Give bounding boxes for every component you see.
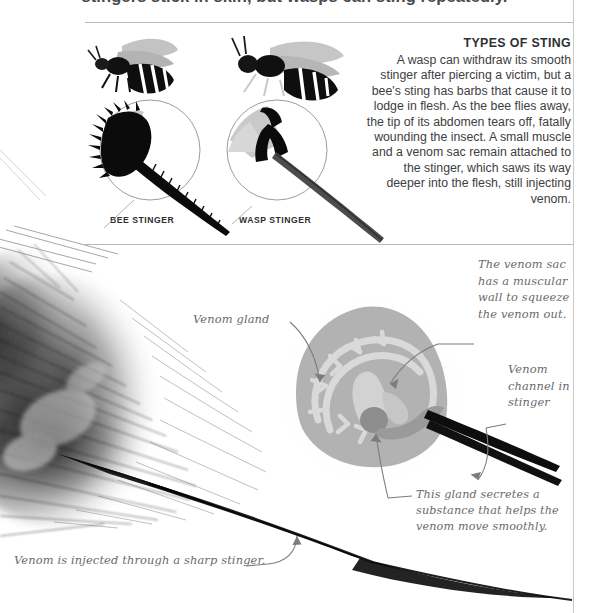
infographic-page: stingers stick in skin, but wasps can st… xyxy=(0,0,589,613)
types-of-sting-title: TYPES OF STING xyxy=(363,36,571,51)
label-venom-channel: Venom channel in stinger xyxy=(508,361,578,411)
label-venom-gland: Venom gland xyxy=(193,311,270,328)
types-of-sting-panel: TYPES OF STING A wasp can withdraw its s… xyxy=(363,36,571,207)
caption-venom-injection: Venom is injected through a sharp stinge… xyxy=(14,552,266,569)
note-gland-secretion: This gland secretes a substance that hel… xyxy=(416,487,576,535)
types-of-sting-body: A wasp can withdraw its smooth stinger a… xyxy=(363,53,571,207)
note-venom-sac: The venom sac has a muscular wall to squ… xyxy=(478,256,574,322)
